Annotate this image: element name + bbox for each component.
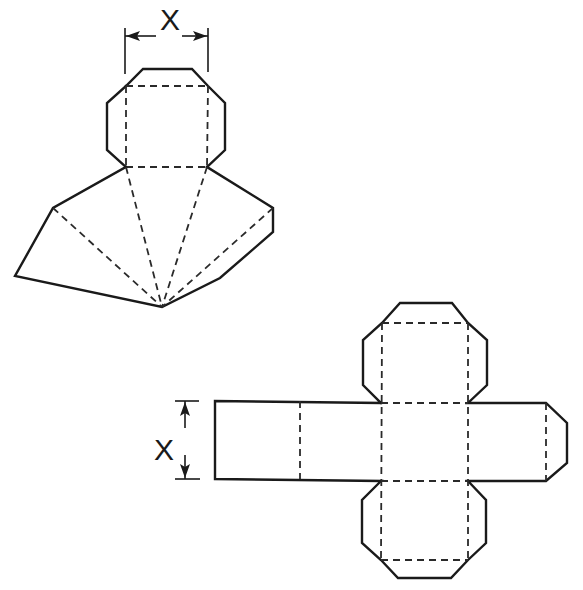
top-net: X — [15, 3, 273, 307]
fold-line — [207, 86, 208, 167]
dimension-label-left: X — [154, 433, 174, 466]
nets-figure: X X — [0, 0, 583, 590]
bottom-net: X — [154, 303, 567, 578]
dimension-label-top: X — [160, 3, 180, 36]
octagon-tab-right-outline — [126, 69, 225, 167]
box-net-outline — [215, 303, 567, 578]
octagon-tab-left-outline — [107, 86, 126, 167]
fold-line — [162, 208, 273, 307]
fold-line — [53, 208, 162, 307]
fold-line — [126, 167, 162, 307]
diagram-canvas: X X — [0, 0, 583, 590]
fold-line — [162, 167, 207, 307]
fold-line — [381, 323, 382, 560]
